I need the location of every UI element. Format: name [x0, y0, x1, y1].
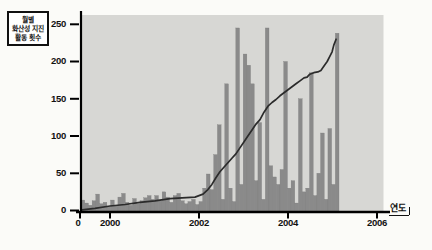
month-bar: [133, 199, 137, 212]
month-bar: [280, 170, 284, 212]
month-bar: [335, 33, 339, 211]
month-bar: [321, 133, 325, 211]
month-bar: [177, 193, 181, 211]
month-bar: [262, 199, 266, 211]
month-bar: [210, 190, 214, 212]
month-bar: [251, 84, 255, 212]
y-tick-label-0: 0: [28, 204, 66, 215]
month-bar: [324, 199, 328, 211]
month-bar: [199, 202, 203, 212]
x-tick-label-2000: 2000: [88, 217, 132, 228]
month-bar: [284, 62, 288, 212]
month-bar: [170, 202, 174, 211]
x-tick-label-2004: 2004: [266, 217, 310, 228]
month-bar: [129, 205, 133, 211]
month-bar: [240, 184, 244, 211]
month-bar: [155, 196, 159, 212]
y-tick-label-100: 100: [28, 130, 66, 141]
month-bar: [147, 196, 151, 212]
month-bar: [122, 193, 126, 211]
month-bar: [236, 28, 240, 212]
month-bar: [302, 192, 306, 212]
y-tick-label-50: 50: [28, 167, 66, 178]
month-bar: [228, 188, 232, 211]
month-bar: [328, 129, 332, 212]
y-tick-label-250: 250: [28, 18, 66, 29]
month-bar: [225, 84, 229, 212]
month-bar: [313, 196, 317, 212]
month-bar: [144, 198, 148, 212]
x-axis-title: 연도: [389, 201, 409, 216]
month-bar: [317, 173, 321, 211]
month-bar: [265, 28, 269, 212]
y-axis-title-line-3: 활동 횟수: [12, 33, 44, 42]
month-bar: [243, 54, 247, 211]
month-bar: [217, 125, 221, 212]
month-bar: [306, 188, 310, 211]
month-bar: [258, 123, 262, 212]
month-bar: [332, 184, 336, 211]
y-tick-label-150: 150: [28, 93, 66, 104]
month-bar: [295, 203, 299, 211]
month-bar: [298, 99, 302, 212]
x-tick-label-2006: 2006: [355, 217, 399, 228]
month-bar: [269, 166, 273, 212]
month-bar: [214, 155, 218, 212]
month-bar: [254, 181, 258, 212]
month-bar: [273, 177, 277, 212]
month-bar: [136, 204, 140, 212]
month-bar: [247, 65, 251, 211]
month-bar: [188, 202, 192, 212]
month-bar: [184, 204, 188, 212]
month-bar: [232, 202, 236, 212]
month-bar: [162, 192, 166, 212]
chart-canvas: 월별 화산성 지진 활동 횟수 250 200 150 100 50 0 0 2…: [0, 0, 432, 250]
month-bar: [158, 201, 162, 212]
month-bar: [107, 207, 111, 212]
month-bar: [92, 201, 96, 212]
month-bar: [206, 174, 210, 212]
month-bar: [291, 181, 295, 212]
month-bar: [192, 199, 196, 211]
month-bar: [221, 199, 225, 211]
month-bar: [276, 184, 280, 211]
x-tick-label-2002: 2002: [177, 217, 221, 228]
month-bar: [287, 188, 291, 211]
month-bar: [310, 73, 314, 212]
y-tick-label-200: 200: [28, 55, 66, 66]
month-bar: [195, 205, 199, 212]
month-bar: [181, 201, 185, 212]
